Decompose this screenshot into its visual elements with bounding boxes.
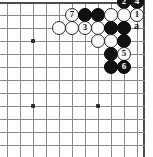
stone-white[interactable] xyxy=(91,34,105,48)
stone-black[interactable] xyxy=(78,8,92,22)
stone-move-number: 6 xyxy=(122,62,127,71)
stone-white-move-7[interactable]: 7 xyxy=(65,8,79,22)
stone-white-move-3[interactable]: 3 xyxy=(78,21,92,35)
stone-move-number: 4 xyxy=(135,0,140,6)
stone-white[interactable] xyxy=(104,34,118,48)
grid-line-horizontal xyxy=(0,132,145,133)
grid-line-horizontal xyxy=(0,145,145,146)
stone-white[interactable] xyxy=(65,21,79,35)
go-board[interactable]: 2471356a xyxy=(0,0,153,157)
stone-move-number: 1 xyxy=(135,10,140,19)
stone-black[interactable] xyxy=(104,60,118,74)
stone-move-number: 3 xyxy=(83,23,88,32)
stone-white[interactable] xyxy=(117,8,131,22)
grid-line-horizontal xyxy=(0,106,145,107)
star-point xyxy=(31,104,35,108)
stone-white[interactable] xyxy=(52,21,66,35)
grid-line-horizontal xyxy=(0,93,145,94)
go-diagram-figure: 2471356a xyxy=(0,0,153,157)
stone-white[interactable] xyxy=(91,21,105,35)
stone-white-move-5[interactable]: 5 xyxy=(117,47,131,61)
grid-line-horizontal xyxy=(0,119,145,120)
stone-black[interactable] xyxy=(104,21,118,35)
stone-black-move-6[interactable]: 6 xyxy=(117,60,131,74)
star-point xyxy=(31,39,35,43)
star-point xyxy=(96,104,100,108)
stone-black[interactable] xyxy=(104,47,118,61)
grid-line-horizontal xyxy=(0,80,145,81)
stone-white[interactable] xyxy=(104,8,118,22)
point-marker-a: a xyxy=(134,21,139,31)
stone-black[interactable] xyxy=(91,8,105,22)
stone-move-number: 5 xyxy=(122,49,127,58)
stone-move-number: 2 xyxy=(122,0,127,6)
board-edge-right xyxy=(143,0,145,157)
stone-black[interactable] xyxy=(117,34,131,48)
stone-move-number: 7 xyxy=(70,10,75,19)
stone-black[interactable] xyxy=(117,21,131,35)
